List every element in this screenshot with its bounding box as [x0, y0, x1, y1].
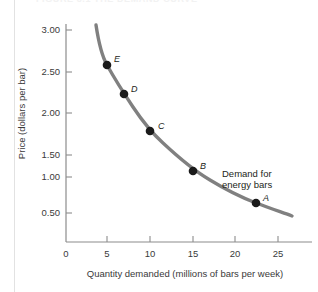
data-point-d [120, 90, 129, 99]
point-label-c: C [158, 121, 165, 131]
x-tick-label-10: 10 [138, 248, 162, 259]
x-axis-title: Quantity demanded (millions of bars per … [56, 268, 314, 279]
y-axis-ticks [66, 30, 72, 213]
y-tick-label-1-00: 1.00 [30, 171, 60, 182]
y-tick-label-2-00: 2.00 [30, 107, 60, 118]
data-point-c [146, 127, 155, 136]
point-label-a: A [263, 193, 269, 203]
x-tick-label-25: 25 [266, 248, 290, 259]
data-point-b [189, 167, 198, 176]
point-label-d: D [131, 84, 138, 94]
x-tick-label-0: 0 [54, 248, 78, 259]
y-tick-label-2-50: 2.50 [30, 66, 60, 77]
point-label-e: E [114, 54, 120, 64]
y-tick-label-0-50: 0.50 [30, 207, 60, 218]
data-point-a [252, 199, 261, 208]
data-point-e [103, 61, 112, 70]
y-tick-label-3-00: 3.00 [30, 24, 60, 35]
point-label-b: B [200, 161, 206, 171]
annotation-line-2: energy bars [222, 179, 272, 190]
demand-curve-chart: 3.00 2.50 2.00 1.50 1.00 0.50 0 5 10 15 … [0, 0, 318, 292]
x-tick-label-15: 15 [181, 248, 205, 259]
x-tick-label-20: 20 [223, 248, 247, 259]
y-tick-label-1-50: 1.50 [30, 149, 60, 160]
x-axis-ticks [107, 236, 278, 242]
demand-curve-annotation: Demand for energy bars [222, 168, 272, 190]
annotation-line-1: Demand for [222, 168, 272, 179]
x-tick-label-5: 5 [95, 248, 119, 259]
y-axis-title: Price (dollars per bar) [16, 49, 27, 179]
